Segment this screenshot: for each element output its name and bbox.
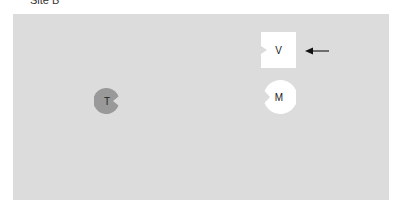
piece-t[interactable]: T (94, 88, 120, 114)
piece-t-label: T (104, 96, 110, 107)
arrow-left-icon (305, 46, 330, 56)
game-board (13, 14, 389, 200)
piece-m-label: M (275, 92, 283, 103)
piece-m[interactable]: M (262, 80, 296, 114)
piece-v-label: V (275, 45, 282, 56)
page-title: Site B (30, 0, 59, 6)
piece-v[interactable]: V (261, 32, 296, 68)
